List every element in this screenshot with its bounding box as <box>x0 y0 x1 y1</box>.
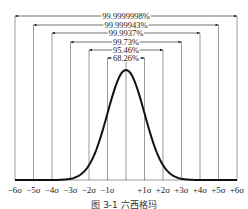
interval-6sigma: 99.9999998% <box>15 11 237 21</box>
interval-3sigma: 99.73% <box>71 37 182 47</box>
x-tick-label: +6σ <box>230 185 245 195</box>
x-tick-label: −4σ <box>45 185 60 195</box>
x-tick-label: −3σ <box>63 185 78 195</box>
interval-5sigma: 99.999943% <box>34 20 219 30</box>
x-tick-label: −2σ <box>82 185 97 195</box>
x-tick-label: −5σ <box>26 185 41 195</box>
x-tick-label: +3σ <box>174 185 189 195</box>
x-tick-label: −6σ <box>8 185 23 195</box>
interval-label: 99.999943% <box>104 20 147 30</box>
x-tick-label: +5σ <box>211 185 226 195</box>
interval-label: 99.9999998% <box>102 11 149 21</box>
x-tick-label: +2σ <box>156 185 171 195</box>
x-tick-label: +4σ <box>193 185 208 195</box>
interval-label: 99.73% <box>113 37 139 47</box>
normal-distribution-diagram: 68.26%95.46%99.73%99.9937%99.999943%99.9… <box>0 0 248 209</box>
x-tick-label: +1σ <box>137 185 152 195</box>
x-tick-label: −1σ <box>100 185 115 195</box>
figure-caption: 图 3-1 六西格玛 <box>91 199 156 209</box>
